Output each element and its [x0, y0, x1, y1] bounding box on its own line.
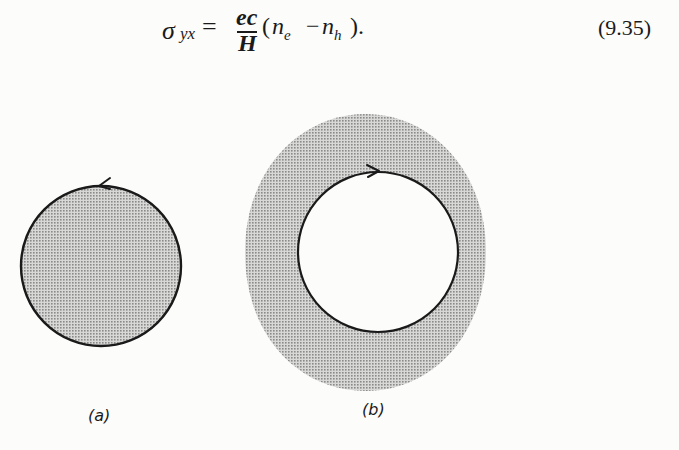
caption-b: (b) — [362, 400, 385, 419]
panel-a — [21, 178, 181, 346]
caption-a: (a) — [88, 406, 110, 425]
panel-b — [245, 114, 486, 391]
orbit-figure — [0, 0, 679, 450]
